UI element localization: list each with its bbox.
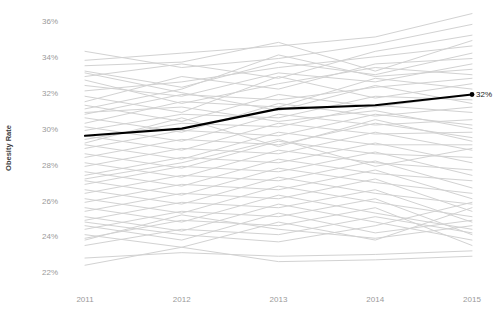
series-line — [85, 190, 472, 222]
y-tick-label: 24% — [42, 232, 58, 241]
obesity-rate-spaghetti-chart: 36%34%32%30%28%26%24%22% 201120122013201… — [0, 0, 502, 316]
y-tick-label: 36% — [42, 17, 58, 26]
y-axis-tick-labels: 36%34%32%30%28%26%24%22% — [42, 17, 58, 278]
y-tick-label: 26% — [42, 197, 58, 206]
chart-canvas: 36%34%32%30%28%26%24%22% 201120122013201… — [0, 0, 502, 316]
x-tick-label: 2012 — [173, 295, 191, 304]
y-tick-label: 22% — [42, 268, 58, 277]
background-series-lines — [85, 14, 472, 266]
x-axis-tick-labels: 20112012201320142015 — [76, 295, 481, 304]
series-line — [85, 186, 472, 217]
series-line — [85, 217, 472, 246]
x-tick-label: 2014 — [366, 295, 384, 304]
highlight-end-point — [470, 92, 475, 97]
series-line — [85, 35, 472, 78]
y-tick-label: 32% — [42, 89, 58, 98]
y-axis-title: Obesity Rate — [4, 125, 13, 171]
y-tick-label: 34% — [42, 53, 58, 62]
series-line — [85, 59, 472, 102]
x-tick-label: 2011 — [76, 295, 94, 304]
y-tick-label: 28% — [42, 161, 58, 170]
series-line — [85, 14, 472, 61]
x-tick-label: 2015 — [463, 295, 481, 304]
x-tick-label: 2013 — [270, 295, 288, 304]
y-tick-label: 30% — [42, 125, 58, 134]
highlight-end-label: 32% — [476, 90, 492, 99]
